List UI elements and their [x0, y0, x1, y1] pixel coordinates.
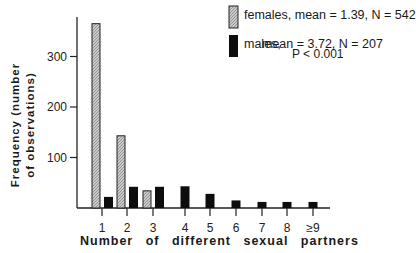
bar-females — [92, 24, 100, 208]
y-tick-label: 200 — [47, 100, 67, 114]
bar-males — [206, 194, 215, 208]
x-tick-label: 5 — [207, 221, 214, 235]
bar-males — [283, 202, 292, 208]
y-axis-label-line1: Frequency (number — [8, 60, 23, 190]
bar-females — [143, 191, 151, 208]
bar-males — [232, 200, 241, 208]
bar-males — [181, 186, 190, 208]
x-tick-label: 2 — [124, 221, 131, 235]
bars — [92, 24, 318, 208]
legend-swatch-males — [229, 35, 238, 57]
x-tick-label: 6 — [233, 221, 240, 235]
bar-males — [155, 187, 164, 208]
bar-males — [104, 197, 113, 208]
x-tick-label: ≥9 — [306, 221, 320, 235]
bar-males — [129, 187, 138, 208]
legend-label-females: females, mean = 1.39, N = 542 — [244, 8, 416, 22]
x-axis-label: Number of different sexual partners — [80, 234, 347, 248]
legend-swatch-females — [229, 6, 238, 28]
x-tick-label: 7 — [259, 221, 266, 235]
p-value-annotation: P < 0.001 — [292, 47, 344, 61]
x-tick-label: 4 — [182, 221, 189, 235]
y-axis-label-line2: of observations) — [23, 60, 38, 190]
x-tick-label: 3 — [150, 221, 157, 235]
x-tick-label: 8 — [284, 221, 291, 235]
y-axis-label: Frequency (number of observations) — [8, 60, 38, 190]
bar-males — [309, 202, 318, 208]
y-tick-label: 300 — [47, 50, 67, 64]
x-tick-label: 1 — [99, 221, 106, 235]
y-tick-label: 100 — [47, 151, 67, 165]
bar-males — [258, 202, 267, 208]
bar-females — [117, 136, 125, 208]
